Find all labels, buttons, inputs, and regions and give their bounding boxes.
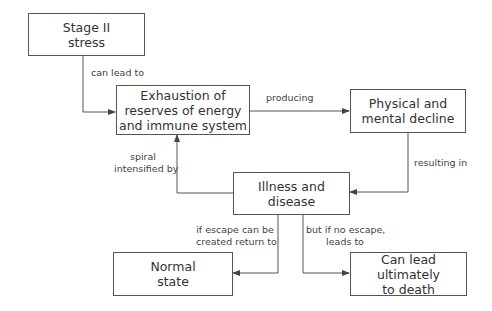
edge-illness-to-exhaustion — [177, 135, 233, 193]
edge-label-line: created return to — [196, 236, 274, 248]
node-text-line: Exhaustion of — [119, 88, 247, 103]
node-text-line: Can lead ultimately — [351, 252, 466, 282]
edge-label-line: can lead to — [91, 67, 144, 78]
edge-label-line: intensified by — [114, 163, 172, 175]
node-text-line: mental decline — [362, 111, 455, 126]
edge-label-line: but if no escape, — [306, 224, 384, 236]
edge-label-line: if escape can be — [196, 224, 274, 236]
node-illness-disease: Illness and disease — [233, 172, 350, 215]
edge-label-line: producing — [266, 92, 314, 103]
edge-label-spiral-intensified-by: spiral intensified by — [114, 151, 172, 175]
node-stage2-stress: Stage II stress — [28, 13, 145, 56]
edge-stage2-to-exhaustion — [83, 55, 115, 112]
edge-label-escape-return: if escape can be created return to — [196, 224, 274, 248]
node-exhaustion: Exhaustion of reserves of energy and imm… — [116, 85, 250, 135]
node-death: Can lead ultimately to death — [350, 252, 467, 296]
node-text-line: disease — [258, 194, 325, 209]
edge-label-producing: producing — [266, 92, 314, 104]
edge-label-line: spiral — [114, 151, 172, 163]
edge-label-line: resulting in — [414, 157, 467, 168]
edge-label-resulting-in: resulting in — [414, 157, 467, 169]
edge-label-line: leads to — [306, 236, 384, 248]
node-text-line: stress — [63, 35, 110, 50]
edge-label-no-escape-leads-to: but if no escape, leads to — [306, 224, 384, 248]
node-normal-state: Normal state — [113, 252, 233, 296]
node-text-line: Stage II — [63, 20, 110, 35]
node-text-line: reserves of energy — [119, 103, 247, 118]
node-text-line: Physical and — [362, 96, 455, 111]
node-text-line: state — [150, 274, 195, 289]
node-text-line: and immune system — [119, 118, 247, 133]
edge-decline-to-illness — [350, 132, 408, 192]
node-physical-mental-decline: Physical and mental decline — [350, 89, 466, 133]
node-text-line: Illness and — [258, 179, 325, 194]
node-text-line: Normal — [150, 259, 195, 274]
node-text-line: to death — [351, 282, 466, 297]
edge-label-can-lead-to: can lead to — [91, 67, 144, 79]
